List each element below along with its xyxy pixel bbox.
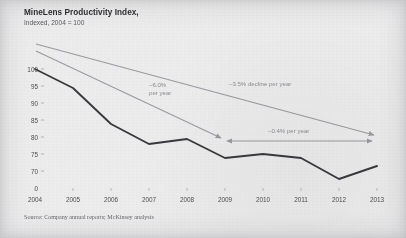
trend-arrow-3-5-percent	[36, 44, 374, 135]
chart-sheet: MineLens Productivity Index, Indexed, 20…	[0, 0, 406, 238]
series-line-minelens-productivity-index	[35, 69, 377, 179]
chart-plot-area	[0, 0, 406, 238]
trend-arrow-0-4-percent-left-head	[226, 138, 232, 143]
trend-arrow-6-0-percent	[36, 51, 221, 138]
y-axis-ticks	[41, 69, 44, 171]
x-axis-ticks	[35, 188, 377, 191]
